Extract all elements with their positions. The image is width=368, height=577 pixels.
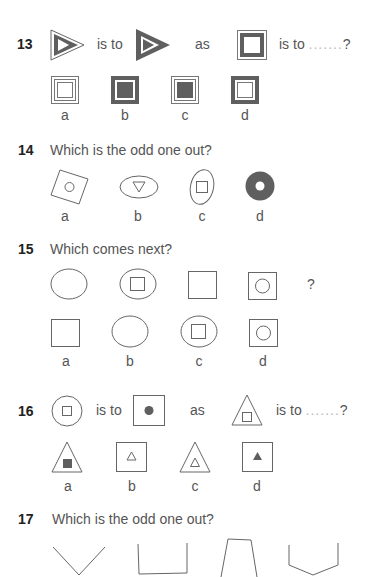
option-d-shape[interactable] [288, 543, 340, 577]
option-a-shape[interactable] [52, 545, 108, 577]
option-b-shape[interactable] [111, 76, 139, 104]
option-a-label: a [56, 353, 76, 369]
option-a-shape[interactable] [51, 76, 79, 104]
option-b-label: b [120, 353, 140, 369]
triangle-with-square-icon [231, 394, 263, 426]
option-a-label: a [58, 478, 78, 494]
option-c-shape[interactable] [171, 76, 199, 104]
question-prompt: Which is the odd one out? [50, 142, 212, 158]
option-a-label: a [55, 208, 75, 224]
as-text: as [190, 402, 205, 418]
option-c-shape[interactable] [180, 315, 218, 348]
sequence-shape-4 [248, 272, 277, 300]
is-to-text: is to [96, 402, 122, 418]
option-c-label: c [175, 107, 195, 123]
option-b-label: b [122, 478, 142, 494]
square-double-frame-icon [237, 30, 267, 60]
is-to-text: is to [97, 36, 123, 52]
circle-with-square-icon [51, 395, 83, 427]
sequence-shape-3 [188, 271, 217, 299]
question-number: 16 [18, 403, 34, 419]
option-a-shape[interactable] [51, 441, 83, 473]
option-c-shape[interactable] [179, 441, 211, 473]
option-a-label: a [55, 107, 75, 123]
question-prompt: Which is the odd one out? [52, 511, 214, 527]
triangle-filled-icon [135, 28, 171, 62]
is-to-answer-text: is to .......? [276, 402, 348, 418]
sequence-shape-2 [119, 268, 157, 300]
option-c-shape[interactable] [219, 537, 259, 577]
as-text: as [195, 36, 210, 52]
option-c-shape[interactable] [189, 168, 215, 206]
option-d-label: d [247, 478, 267, 494]
question-number: 14 [18, 142, 34, 158]
option-d-label: d [250, 208, 270, 224]
option-b-shape[interactable] [119, 175, 159, 199]
option-c-label: c [189, 353, 209, 369]
question-number: 13 [17, 36, 33, 52]
square-with-filled-circle-icon [133, 395, 165, 426]
option-b-label: b [128, 208, 148, 224]
option-b-shape[interactable] [111, 315, 149, 348]
option-d-shape[interactable] [245, 171, 275, 201]
option-d-shape[interactable] [249, 319, 278, 347]
option-c-label: c [185, 478, 205, 494]
option-b-shape[interactable] [137, 543, 189, 576]
sequence-question-mark: ? [307, 276, 315, 292]
option-a-shape[interactable] [51, 319, 80, 347]
option-b-shape[interactable] [116, 442, 147, 472]
option-a-shape[interactable] [50, 168, 90, 206]
sequence-shape-1 [50, 268, 88, 300]
option-d-shape[interactable] [231, 76, 259, 104]
question-number: 17 [18, 511, 34, 527]
question-prompt: Which comes next? [50, 241, 172, 257]
option-d-label: d [235, 107, 255, 123]
option-c-label: c [192, 208, 212, 224]
is-to-answer-text: is to .......? [279, 36, 351, 52]
option-b-label: b [115, 107, 135, 123]
triangle-outline-icon [50, 29, 86, 61]
option-d-label: d [253, 353, 273, 369]
option-d-shape[interactable] [242, 442, 273, 472]
question-number: 15 [18, 241, 34, 257]
